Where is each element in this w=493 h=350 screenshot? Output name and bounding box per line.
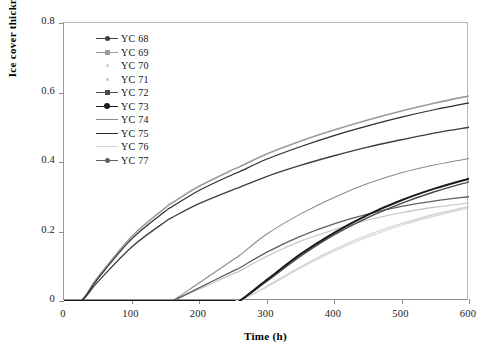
legend-entry-yc-68[interactable]: YC 68: [96, 33, 149, 45]
legend-swatch-icon: [96, 101, 118, 112]
x-axis-title: Time (h): [63, 330, 468, 342]
legend-label: YC 76: [121, 141, 149, 152]
legend-entry-yc-70[interactable]: YC 70: [96, 60, 149, 72]
legend-label: YC 74: [121, 114, 149, 125]
legend-entry-yc-72[interactable]: YC 72: [96, 87, 149, 99]
y-tick-label: 0.2: [21, 224, 55, 235]
legend-swatch-icon: [96, 87, 118, 98]
series-line-yc-72: [64, 182, 469, 301]
legend-swatch-icon: [96, 47, 118, 58]
legend-label: YC 68: [121, 33, 149, 44]
legend-label: YC 71: [121, 74, 149, 85]
x-tick-label: 500: [381, 308, 421, 319]
legend-entry-yc-69[interactable]: YC 69: [96, 47, 149, 59]
series-line-yc-73: [64, 179, 469, 301]
y-tick-label: 0: [21, 293, 55, 304]
y-tick-label: 0.8: [21, 15, 55, 26]
y-axis-title: Ice cover thickness (m): [6, 0, 18, 90]
legend-swatch-icon: [96, 74, 118, 85]
legend-entry-yc-71[interactable]: YC 71: [96, 74, 149, 86]
legend-swatch-icon: [96, 155, 118, 166]
legend-label: YC 72: [121, 87, 149, 98]
x-tick-label: 0: [43, 308, 83, 319]
chart-figure: Ice cover thickness (m) 00.20.40.60.8 01…: [0, 0, 493, 350]
legend-swatch-icon: [96, 128, 118, 139]
y-axis-tick: [59, 301, 64, 302]
legend-label: YC 69: [121, 47, 149, 58]
legend-swatch-icon: [96, 114, 118, 125]
x-tick-label: 300: [246, 308, 286, 319]
legend-entry-yc-77[interactable]: YC 77: [96, 155, 149, 167]
x-tick-label: 100: [111, 308, 151, 319]
x-tick-label: 200: [178, 308, 218, 319]
legend-entry-yc-73[interactable]: YC 73: [96, 101, 149, 113]
y-tick-label: 0.4: [21, 154, 55, 165]
legend-entry-yc-75[interactable]: YC 75: [96, 128, 149, 140]
legend-label: YC 75: [121, 128, 149, 139]
y-tick-label: 0.6: [21, 85, 55, 96]
x-axis-tick: [469, 299, 470, 304]
chart-legend: YC 68YC 69YC 70YC 71YC 72YC 73YC 74YC 75…: [96, 33, 149, 166]
legend-label: YC 70: [121, 60, 149, 71]
series-line-yc-77: [64, 197, 469, 301]
legend-entry-yc-74[interactable]: YC 74: [96, 114, 149, 126]
legend-swatch-icon: [96, 141, 118, 152]
legend-swatch-icon: [96, 60, 118, 71]
x-tick-label: 600: [448, 308, 488, 319]
legend-entry-yc-76[interactable]: YC 76: [96, 141, 149, 153]
legend-label: YC 77: [121, 155, 149, 166]
x-tick-label: 400: [313, 308, 353, 319]
legend-label: YC 73: [121, 101, 149, 112]
legend-swatch-icon: [96, 33, 118, 44]
